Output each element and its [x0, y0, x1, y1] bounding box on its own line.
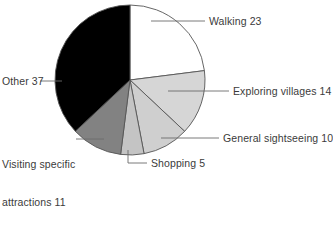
pie-label-shopping: Shopping 5 — [151, 157, 205, 170]
pie-label-visiting-specific-attractions: Visiting specific attractions 11 — [2, 133, 75, 233]
pie-label-other: Other 37 — [2, 75, 44, 88]
pie-label-visiting-line-1: Visiting specific — [2, 158, 75, 171]
pie-label-visiting-line-2: attractions 11 — [2, 196, 75, 209]
pie-label-general-sightseeing: General sightseeing 10 — [223, 132, 333, 145]
pie-label-walking: Walking 23 — [209, 15, 262, 28]
pie-label-exploring-villages: Exploring villages 14 — [233, 85, 331, 98]
pie-slice-walking[interactable] — [130, 5, 204, 80]
